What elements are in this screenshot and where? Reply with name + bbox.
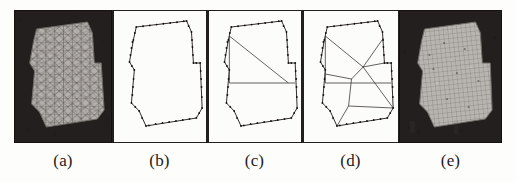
partial-partition-graphic (209, 11, 301, 142)
caption-b: (b) (112, 146, 207, 178)
caption-c: (c) (207, 146, 302, 178)
block-decomposition-graphic (304, 11, 398, 142)
panel-b (112, 10, 207, 143)
caption-d: (d) (302, 146, 399, 178)
panel-row (14, 10, 502, 143)
triangular-mesh-graphic (15, 11, 111, 142)
panel-e (399, 10, 502, 143)
panel-a (14, 10, 112, 143)
boundary-polygon-graphic (114, 11, 206, 142)
caption-row: (a) (b) (c) (d) (e) (14, 146, 502, 178)
quad-mesh-graphic (400, 11, 501, 142)
caption-e: (e) (399, 146, 502, 178)
panel-d (302, 10, 399, 143)
figure-root: (a) (b) (c) (d) (e) (0, 0, 516, 182)
caption-a: (a) (14, 146, 112, 178)
panel-c (207, 10, 302, 143)
